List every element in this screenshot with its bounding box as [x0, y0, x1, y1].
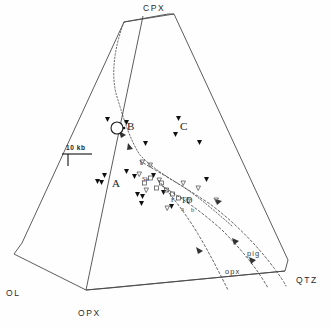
opx-dashed-curve: [158, 180, 228, 290]
region-label-a: A: [112, 177, 120, 189]
annotation-td: TD: [181, 195, 192, 205]
cpx-apex-edge: [124, 14, 174, 22]
scale-bar-label: 10 kb: [66, 144, 86, 151]
pig-dashed-curve: [140, 161, 286, 286]
open-triangle-markers: [137, 160, 219, 211]
middle-dashed-curve: [162, 186, 268, 288]
annotation-f: F: [171, 196, 175, 203]
ternary-diagram-figure: 10 kb CPX OL OPX QTZ B C A pig opx TD F …: [0, 0, 330, 329]
scale-bar: 10 kb: [62, 144, 92, 166]
curve-label-pig: pig: [247, 249, 260, 258]
annotation-a-lower: a: [181, 205, 184, 212]
region-label-c: C: [180, 120, 187, 132]
annotation-b-lower: b: [191, 206, 194, 213]
annotation-c-left: c: [140, 159, 143, 166]
apex-label-opx: OPX: [78, 308, 101, 318]
apex-label-cpx: CPX: [143, 3, 165, 13]
curve-label-opx: opx: [225, 267, 240, 276]
region-label-b: B: [127, 120, 134, 132]
annotation-sk: Sk: [142, 175, 150, 182]
diagram-canvas: 10 kb CPX OL OPX QTZ B C A pig opx TD F …: [0, 0, 330, 329]
bottom-edge: [86, 271, 285, 290]
b-open-circle-marker: [111, 122, 125, 134]
apex-label-qtz: QTZ: [296, 275, 318, 285]
apex-label-ol: OL: [6, 288, 21, 298]
